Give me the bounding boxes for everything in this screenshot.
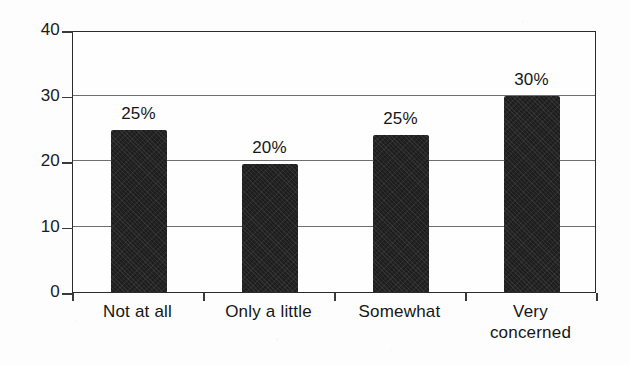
x-category-label-line: Very (465, 301, 596, 322)
y-tick-label-20: 20 (14, 151, 60, 171)
x-tick-mark-4 (596, 293, 598, 301)
x-category-label: Not at all (72, 301, 203, 322)
y-tick-mark-10 (62, 228, 73, 230)
y-tick-label-30: 30 (14, 86, 60, 106)
x-category-label: Somewhat (334, 301, 465, 322)
x-tick-mark-1 (203, 293, 205, 301)
x-tick-mark-3 (465, 293, 467, 301)
y-tick-mark-30 (62, 97, 73, 99)
x-category-label-line: concerned (465, 322, 596, 343)
bar-chart: 25%20%25%30% 010203040 Not at allOnly a … (0, 0, 630, 365)
y-tick-mark-40 (62, 31, 73, 33)
x-tick-mark-0 (72, 293, 74, 301)
x-tick-mark-2 (334, 293, 336, 301)
y-tick-mark-20 (62, 162, 73, 164)
y-tick-label-10: 10 (14, 217, 60, 237)
x-category-label: Only a little (203, 301, 334, 322)
x-category-label-line: Somewhat (334, 301, 465, 322)
x-category-label-line: Only a little (203, 301, 334, 322)
y-tick-label-0: 0 (14, 282, 60, 302)
x-category-label-line: Not at all (72, 301, 203, 322)
x-category-label: Veryconcerned (465, 301, 596, 343)
y-tick-label-40: 40 (14, 20, 60, 40)
